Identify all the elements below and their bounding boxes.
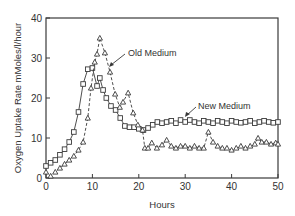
x-axis-title: Hours (149, 199, 175, 210)
triangle-marker (238, 143, 243, 148)
x-tick-label: 30 (180, 181, 192, 192)
square-marker (178, 118, 183, 123)
square-marker (53, 158, 58, 163)
triangle-marker (164, 137, 169, 142)
square-marker (188, 118, 193, 123)
square-marker (101, 88, 106, 93)
square-marker (192, 120, 197, 125)
square-marker (146, 126, 151, 131)
triangle-marker (102, 50, 107, 55)
square-marker (215, 119, 220, 124)
triangle-marker (120, 99, 125, 104)
x-tick-label: 10 (87, 181, 99, 192)
x-tick-label: 20 (133, 181, 145, 192)
square-marker (201, 119, 206, 124)
square-marker (266, 120, 271, 125)
square-marker (155, 120, 160, 125)
triangle-marker (192, 143, 197, 148)
triangle-marker (126, 90, 131, 95)
square-marker (72, 130, 77, 135)
square-marker (276, 120, 281, 125)
triangle-marker (131, 110, 136, 115)
annotations: Old MediumNew Medium (109, 48, 251, 117)
square-marker (160, 121, 165, 126)
y-tick-label: 0 (36, 173, 42, 184)
square-marker (234, 120, 239, 125)
square-marker (239, 121, 244, 126)
square-marker (123, 124, 128, 129)
y-axis-title: Oxygen Uptake Rate mMoles/l/hour (12, 23, 23, 173)
triangle-marker (206, 129, 211, 134)
square-marker (248, 119, 253, 124)
square-marker (169, 119, 174, 124)
triangle-marker (71, 153, 76, 158)
x-tick-label: 0 (43, 181, 49, 192)
annotation-new-medium: New Medium (198, 101, 251, 111)
square-marker (271, 121, 276, 126)
square-marker (95, 84, 100, 89)
square-marker (150, 123, 155, 128)
square-marker (225, 121, 230, 126)
triangle-marker (210, 139, 215, 144)
square-marker (85, 67, 90, 72)
square-marker (104, 96, 109, 101)
y-tick-label: 40 (31, 13, 43, 24)
square-marker (98, 76, 103, 81)
y-tick-label: 10 (31, 133, 43, 144)
square-marker (164, 120, 169, 125)
oxygen-uptake-chart: 01020304050010203040 Old MediumNew Mediu… (0, 0, 295, 216)
x-tick-label: 40 (226, 181, 238, 192)
square-marker (48, 161, 53, 166)
square-marker (206, 120, 211, 125)
triangle-marker (113, 91, 118, 96)
square-marker (58, 153, 63, 158)
square-marker (62, 147, 67, 152)
triangle-marker (92, 59, 97, 64)
square-marker (183, 120, 188, 125)
triangle-marker (97, 35, 102, 40)
triangle-marker (85, 115, 90, 120)
square-marker (44, 164, 49, 169)
x-tick-label: 50 (272, 181, 284, 192)
square-marker (67, 140, 72, 145)
triangle-marker (224, 145, 229, 150)
triangle-marker (149, 140, 154, 145)
square-marker (262, 119, 267, 124)
square-marker (81, 82, 86, 87)
triangle-marker (117, 105, 122, 110)
y-tick-label: 30 (31, 53, 43, 64)
triangle-marker (252, 141, 257, 146)
y-tick-label: 20 (31, 93, 43, 104)
triangle-marker (81, 139, 86, 144)
square-marker (76, 110, 81, 115)
square-marker (197, 121, 202, 126)
triangle-marker (88, 85, 93, 90)
square-marker (220, 120, 225, 125)
triangle-marker (255, 135, 260, 140)
square-marker (243, 120, 248, 125)
square-marker (127, 125, 132, 130)
triangle-marker (76, 147, 81, 152)
triangle-marker (94, 51, 99, 56)
annotation-old-medium: Old Medium (128, 48, 177, 58)
triangle-marker (43, 169, 48, 174)
square-marker (109, 104, 114, 109)
square-marker (257, 120, 262, 125)
square-marker (211, 121, 216, 126)
square-marker (229, 119, 234, 124)
arrow-old-medium (111, 54, 125, 65)
square-marker (118, 116, 123, 121)
square-marker (253, 121, 258, 126)
triangle-marker (107, 69, 112, 74)
square-marker (174, 121, 179, 126)
